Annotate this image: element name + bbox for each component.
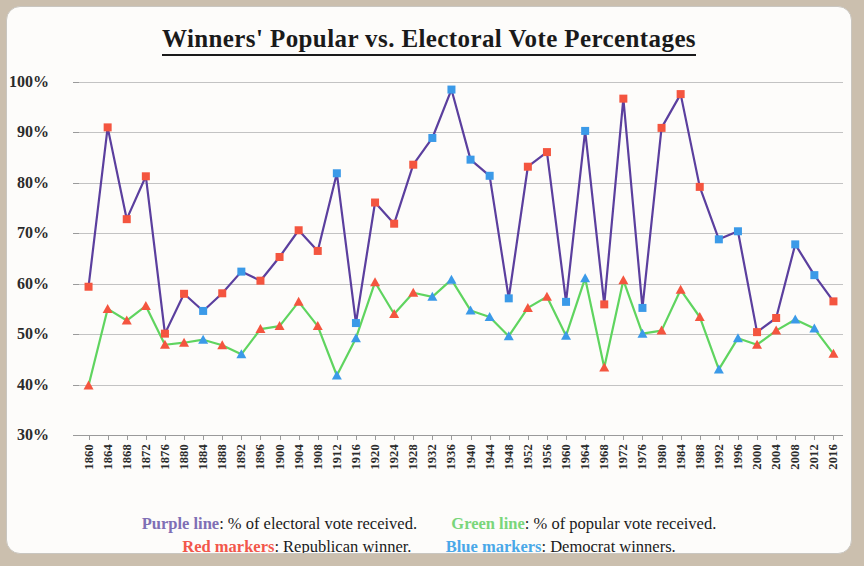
series-layer [79, 82, 843, 435]
x-axis-label: 1924 [387, 444, 402, 470]
page-title-text: Winners' Popular vs. Electoral Vote Perc… [162, 25, 696, 56]
x-axis-label: 1908 [311, 444, 326, 470]
legend-blue-desc: : Democrat winners. [541, 537, 675, 554]
electoral-marker [562, 298, 570, 306]
popular-marker [141, 301, 151, 310]
x-axis-label: 1916 [349, 444, 364, 470]
x-tick-mark [776, 436, 777, 440]
x-tick-mark [280, 436, 281, 440]
y-axis-label: 80% [6, 174, 49, 192]
x-tick-mark [146, 436, 147, 440]
electoral-marker [390, 220, 398, 228]
electoral-marker [256, 277, 264, 285]
x-tick-mark [318, 436, 319, 440]
x-axis-label: 2000 [750, 444, 765, 470]
x-axis-label: 1972 [616, 444, 631, 470]
x-axis-label: 1920 [368, 444, 383, 470]
series-line [89, 278, 834, 385]
x-tick-mark [260, 436, 261, 440]
y-axis-label: 60% [6, 275, 49, 293]
x-axis-label: 1980 [655, 444, 670, 470]
x-axis-label: 2012 [807, 444, 822, 470]
x-axis-label: 1948 [502, 444, 517, 470]
x-tick-mark [566, 436, 567, 440]
x-tick-mark [241, 436, 242, 440]
x-axis-label: 1956 [540, 444, 555, 470]
popular-marker [408, 288, 418, 297]
x-tick-mark [413, 436, 414, 440]
electoral-marker [734, 227, 742, 235]
x-axis-label: 1904 [292, 444, 307, 470]
x-axis-label: 1996 [731, 444, 746, 470]
x-axis-label: 1928 [406, 444, 421, 470]
x-axis-label: 1984 [674, 444, 689, 470]
x-axis-label: 1876 [158, 444, 173, 470]
x-axis-label: 1960 [559, 444, 574, 470]
popular-marker [561, 331, 571, 340]
popular-marker [599, 362, 609, 371]
x-axis-label: 1952 [521, 444, 536, 470]
popular-marker [771, 326, 781, 335]
electoral-marker [352, 319, 360, 327]
legend-green-key: Green line [451, 514, 524, 533]
legend-green-desc: : % of popular vote received. [525, 514, 717, 533]
electoral-marker [753, 328, 761, 336]
legend-red-key: Red markers [182, 537, 274, 554]
x-axis-label: 1976 [635, 444, 650, 470]
electoral-marker [123, 215, 131, 223]
x-tick-mark [299, 436, 300, 440]
chart-legend: Purple line: % of electoral vote receive… [7, 512, 851, 554]
electoral-marker [276, 253, 284, 261]
x-axis-label: 1872 [139, 444, 154, 470]
electoral-marker [371, 199, 379, 207]
popular-marker [790, 315, 800, 324]
y-axis-label: 70% [6, 224, 49, 242]
x-tick-mark [451, 436, 452, 440]
x-axis-label: 2008 [788, 444, 803, 470]
legend-row-markers: Red markers: Republican winner. Blue mar… [7, 535, 851, 554]
legend-red-desc: : Republican winner. [274, 537, 411, 554]
x-tick-mark [604, 436, 605, 440]
electoral-marker [677, 90, 685, 98]
electoral-marker [772, 314, 780, 322]
electoral-marker [161, 330, 169, 338]
popular-marker [103, 304, 113, 313]
x-axis-label: 1912 [330, 444, 345, 470]
popular-marker [332, 370, 342, 379]
x-tick-mark [795, 436, 796, 440]
x-tick-mark [757, 436, 758, 440]
x-tick-mark [375, 436, 376, 440]
x-tick-mark [222, 436, 223, 440]
electoral-marker [505, 294, 513, 302]
x-axis-label: 1868 [120, 444, 135, 470]
popular-marker [446, 275, 456, 284]
x-axis-label: 1968 [597, 444, 612, 470]
x-tick-mark [471, 436, 472, 440]
x-tick-mark [165, 436, 166, 440]
x-axis-label: 1964 [578, 444, 593, 470]
x-axis-label: 1932 [425, 444, 440, 470]
popular-marker [294, 297, 304, 306]
electoral-marker [295, 226, 303, 234]
popular-marker [676, 285, 686, 294]
legend-purple-key: Purple line [142, 514, 219, 533]
chart-card: Winners' Popular vs. Electoral Vote Perc… [6, 6, 852, 554]
x-axis-label: 1880 [177, 444, 192, 470]
x-tick-mark [108, 436, 109, 440]
x-tick-mark [356, 436, 357, 440]
electoral-marker [581, 127, 589, 135]
x-axis-label: 1936 [444, 444, 459, 470]
electoral-marker [237, 268, 245, 276]
x-tick-mark [127, 436, 128, 440]
x-axis-label: 1864 [101, 444, 116, 470]
popular-marker [580, 273, 590, 282]
electoral-marker [428, 134, 436, 142]
popular-marker [84, 381, 94, 390]
y-axis-label: 90% [6, 123, 49, 141]
electoral-marker [467, 156, 475, 164]
popular-marker [523, 303, 533, 312]
x-axis-label: 1988 [693, 444, 708, 470]
y-axis-label: 50% [6, 325, 49, 343]
plot-area [79, 82, 843, 435]
x-axis-label: 1860 [82, 444, 97, 470]
